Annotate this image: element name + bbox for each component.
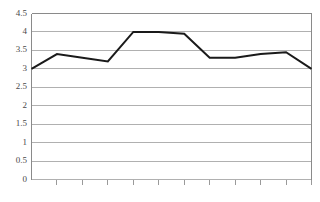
x-tick-group — [57, 180, 312, 185]
line-chart: 00.511.522.533.544.5 — [0, 0, 320, 202]
y-axis-label: 0 — [23, 175, 28, 184]
y-axis-label: 1.5 — [16, 119, 27, 128]
y-axis-label: 0.5 — [16, 156, 27, 165]
y-axis-label: 1 — [23, 138, 28, 147]
chart-plot-area — [0, 0, 320, 202]
y-axis-label: 2.5 — [16, 82, 27, 91]
y-axis-label: 3.5 — [16, 45, 27, 54]
y-axis-label: 4 — [23, 27, 28, 36]
y-axis-label: 3 — [23, 64, 28, 73]
y-axis-label: 2 — [23, 101, 28, 110]
plot-border — [32, 14, 312, 180]
y-axis-label: 4.5 — [16, 9, 27, 18]
gridline-group — [32, 14, 312, 180]
